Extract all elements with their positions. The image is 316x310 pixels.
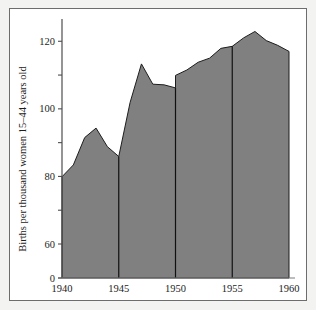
y-tick-label-120: 120	[39, 36, 55, 47]
chart-plate: 0608010012019401945195019551960 Births p…	[9, 8, 307, 301]
x-tick-label-1955: 1955	[222, 283, 243, 294]
y-tick-label-0: 0	[50, 273, 55, 284]
y-axis-title: Births per thousand women 15–44 years ol…	[17, 66, 28, 252]
x-tick-label-1950: 1950	[165, 283, 186, 294]
x-tick-label-1945: 1945	[108, 283, 129, 294]
y-tick-label-80: 80	[45, 171, 56, 182]
plot-area	[62, 31, 289, 278]
y-tick-label-100: 100	[39, 103, 55, 114]
figure-container: 0608010012019401945195019551960 Births p…	[0, 0, 316, 310]
x-tick-label-1940: 1940	[52, 283, 73, 294]
x-tick-label-1960: 1960	[279, 283, 300, 294]
y-tick-label-60: 60	[45, 239, 56, 250]
birth-rate-area-chart: 0608010012019401945195019551960 Births p…	[10, 9, 306, 300]
